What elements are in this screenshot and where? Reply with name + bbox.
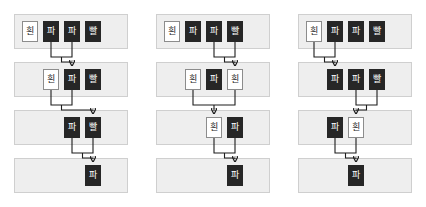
merge-bracket bbox=[356, 90, 377, 105]
connector-layer bbox=[284, 0, 426, 207]
merge-bracket bbox=[214, 42, 235, 57]
merge-arrow bbox=[62, 57, 73, 63]
merge-arrow bbox=[346, 153, 357, 159]
panel-1: 흰파파빨흰파빨파빨파 bbox=[0, 0, 142, 207]
merge-bracket bbox=[193, 90, 235, 105]
diagram-canvas: 흰파파빨흰파빨파빨파흰파파빨흰파흰흰파파흰파파빨파파빨파흰파 bbox=[0, 0, 426, 207]
panel-2: 흰파파빨흰파흰흰파파 bbox=[142, 0, 284, 207]
connector-layer bbox=[142, 0, 284, 207]
merge-bracket bbox=[335, 138, 356, 153]
merge-bracket bbox=[51, 90, 72, 105]
merge-arrow bbox=[356, 105, 367, 111]
merge-arrow bbox=[325, 57, 336, 63]
merge-bracket bbox=[314, 42, 335, 57]
merge-bracket bbox=[72, 138, 93, 153]
merge-arrow bbox=[83, 153, 94, 159]
panel-3: 흰파파빨파파빨파흰파 bbox=[284, 0, 426, 207]
merge-bracket bbox=[214, 138, 235, 153]
merge-arrow bbox=[225, 153, 236, 159]
merge-arrow bbox=[62, 105, 94, 111]
connector-layer bbox=[0, 0, 142, 207]
merge-arrow bbox=[225, 57, 236, 63]
merge-bracket bbox=[51, 42, 72, 57]
